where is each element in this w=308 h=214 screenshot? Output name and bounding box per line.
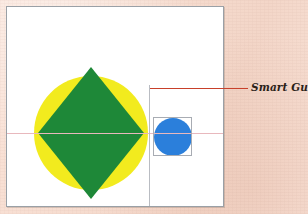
smart-guide-callout-line (150, 88, 248, 89)
drawing-canvas[interactable] (6, 6, 224, 207)
figure-screenshot: Smart Guide (0, 0, 308, 214)
smart-guide-callout-label: Smart Guide (251, 81, 308, 94)
vertical-alignment-guide (149, 85, 150, 206)
shapes-layer (7, 7, 223, 206)
blue-circle-selection-box[interactable] (153, 117, 192, 156)
